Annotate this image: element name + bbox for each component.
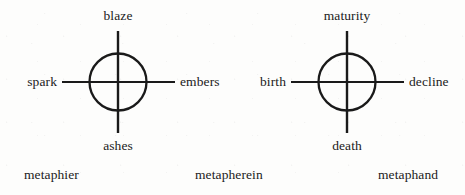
pole-label-right: decline bbox=[409, 75, 449, 89]
caption-metaphier: metaphier bbox=[24, 168, 79, 182]
fire-metaphor-diagram: blaze ashes spark embers bbox=[0, 0, 232, 160]
pole-label-top: blaze bbox=[104, 9, 133, 23]
pole-label-left: birth bbox=[260, 75, 286, 89]
life-metaphor-diagram: maturity death birth decline bbox=[232, 0, 465, 160]
caption-metaphand: metaphand bbox=[378, 168, 438, 182]
pole-label-bottom: death bbox=[332, 139, 362, 153]
pole-label-top: maturity bbox=[324, 9, 371, 23]
figure-container: blaze ashes spark embers maturity death … bbox=[0, 0, 465, 195]
pole-label-left: spark bbox=[27, 75, 57, 89]
caption-metapherein: metapherein bbox=[195, 168, 263, 182]
pole-label-right: embers bbox=[180, 75, 220, 89]
pole-label-bottom: ashes bbox=[103, 139, 133, 153]
